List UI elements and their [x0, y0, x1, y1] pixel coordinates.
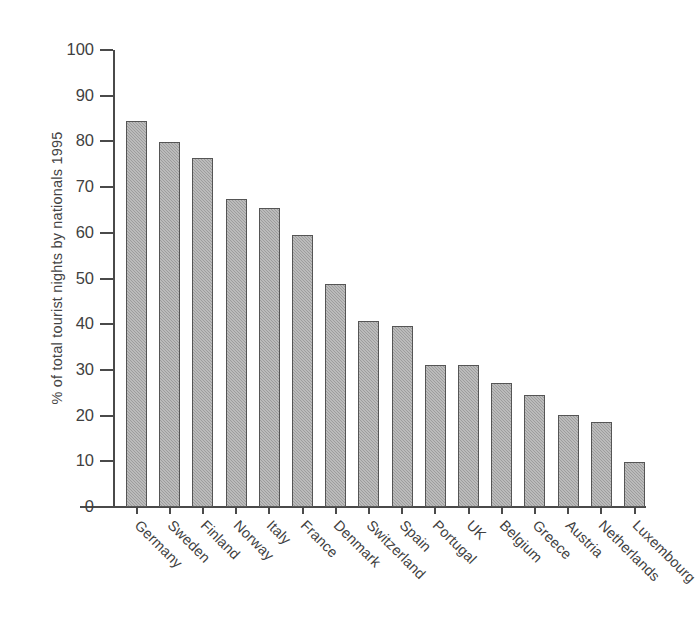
- y-tick-mark: [100, 506, 113, 508]
- bar-norway: [226, 199, 247, 507]
- bar-austria: [558, 415, 579, 507]
- y-tick-label: 90: [76, 85, 94, 105]
- bar-switzerland: [358, 321, 379, 507]
- y-tick-label: 100: [66, 39, 94, 59]
- x-tick-mark: [401, 507, 403, 514]
- bar-spain: [392, 326, 413, 507]
- bar-greece: [524, 395, 545, 507]
- x-tick-mark: [268, 507, 270, 514]
- x-tick-mark: [600, 507, 602, 514]
- y-tick-mark: [100, 232, 113, 234]
- y-tick-mark: [100, 49, 113, 51]
- bar-belgium: [491, 383, 512, 507]
- bar-france: [292, 235, 313, 507]
- bar-denmark: [325, 284, 346, 507]
- x-tick-mark: [468, 507, 470, 514]
- bar-finland: [192, 158, 213, 507]
- y-tick-mark: [100, 369, 113, 371]
- y-tick-label: 60: [76, 222, 94, 242]
- x-tick-mark: [235, 507, 237, 514]
- y-tick-label: 50: [76, 268, 94, 288]
- y-tick-mark: [100, 278, 113, 280]
- bar-uk: [458, 365, 479, 507]
- x-tick-mark: [202, 507, 204, 514]
- y-tick-mark: [100, 415, 113, 417]
- x-tick-mark: [169, 507, 171, 514]
- x-tick-mark: [335, 507, 337, 514]
- y-tick-mark: [100, 95, 113, 97]
- x-tick-mark: [302, 507, 304, 514]
- x-tick-mark: [501, 507, 503, 514]
- bar-italy: [259, 208, 280, 507]
- bar-sweden: [159, 142, 180, 507]
- bar-netherlands: [591, 422, 612, 507]
- y-tick-label: 30: [76, 359, 94, 379]
- x-tick-mark: [634, 507, 636, 514]
- y-tick-mark: [100, 460, 113, 462]
- x-tick-mark: [136, 507, 138, 514]
- bar-portugal: [425, 365, 446, 507]
- y-tick-mark: [100, 140, 113, 142]
- plot-area: [113, 50, 653, 507]
- bar-germany: [126, 121, 147, 507]
- x-tick-mark: [534, 507, 536, 514]
- x-tick-mark: [368, 507, 370, 514]
- bar-luxembourg: [624, 462, 645, 507]
- y-tick-mark: [100, 323, 113, 325]
- y-tick-label: 10: [76, 450, 94, 470]
- y-tick-label: 40: [76, 313, 94, 333]
- y-tick-label: 20: [76, 405, 94, 425]
- x-axis-label-uk: UK: [463, 517, 489, 543]
- y-tick-mark: [100, 186, 113, 188]
- y-tick-label: 0: [85, 496, 94, 516]
- x-tick-mark: [434, 507, 436, 514]
- y-tick-label: 70: [76, 176, 94, 196]
- y-tick-label: 80: [76, 130, 94, 150]
- y-axis-title: % of total tourist nights by nationals 1…: [49, 48, 65, 488]
- x-tick-mark: [567, 507, 569, 514]
